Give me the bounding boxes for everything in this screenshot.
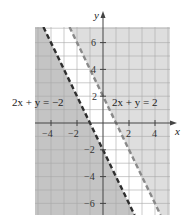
inequality-graph: y x −4 −2 2 4 6 4 2 −2 −4 −6 2x + y = −2… <box>0 0 188 223</box>
y-axis-label: y <box>93 9 99 21</box>
y-tick-6: 6 <box>91 37 96 48</box>
equation-label-left: 2x + y = −2 <box>12 96 64 108</box>
y-tick-2: 2 <box>92 91 97 102</box>
x-tick-2: 2 <box>126 128 131 139</box>
x-tick-4: 4 <box>152 128 157 139</box>
x-tick-neg4: −4 <box>42 128 53 139</box>
x-axis-label: x <box>174 125 180 137</box>
equation-label-right: 2x + y = 2 <box>112 96 157 108</box>
y-axis-arrow-icon <box>101 11 106 18</box>
y-tick-neg6: −6 <box>84 198 95 209</box>
y-tick-4: 4 <box>91 64 96 75</box>
y-tick-neg4: −4 <box>84 171 95 182</box>
x-tick-neg2: −2 <box>68 128 79 139</box>
y-tick-neg2: −2 <box>84 144 95 155</box>
